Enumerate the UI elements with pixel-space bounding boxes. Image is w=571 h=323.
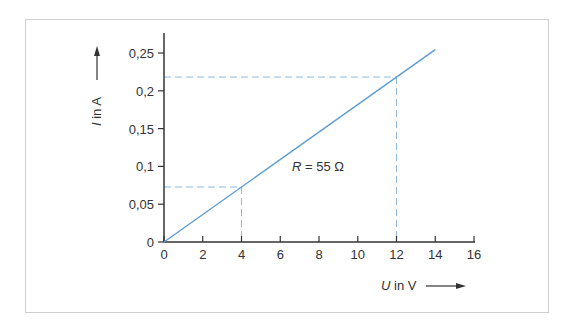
x-tick-label: 14 [428,247,442,262]
series-line [164,50,435,242]
y-tick-label: 0,1 [136,159,154,174]
axes [164,33,475,242]
y-tick-label: 0,15 [129,122,154,137]
resistance-annotation: R = 55 Ω [292,159,344,174]
x-tick-label: 8 [315,247,322,262]
x-tick-label: 10 [351,247,365,262]
x-tick-label: 16 [467,247,481,262]
x-ticks: 0246810121416 [160,236,481,262]
y-ticks: 00,050,10,150,20,25 [129,46,164,250]
x-tick-label: 2 [199,247,206,262]
data-series [164,50,435,242]
x-tick-label: 12 [389,247,403,262]
x-axis-label: U in V [381,278,466,293]
y-arrowhead-icon [94,46,100,56]
x-tick-label: 4 [238,247,245,262]
x-tick-label: 0 [160,247,167,262]
y-tick-label: 0,2 [136,84,154,99]
y-axis-label: I in A [89,46,104,126]
y-tick-label: 0,05 [129,197,154,212]
line-chart: 0246810121416 00,050,10,150,20,25 R = 55… [0,0,571,323]
x-arrowhead-icon [456,283,466,289]
svg-text:U in V: U in V [381,278,417,293]
svg-text:I in A: I in A [89,97,104,126]
y-tick-label: 0,25 [129,46,154,61]
x-tick-label: 6 [277,247,284,262]
y-tick-label: 0 [147,235,154,250]
